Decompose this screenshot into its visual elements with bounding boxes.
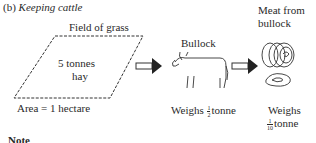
cow-icon — [172, 52, 227, 88]
field-content-line1: 5 tonnes — [58, 57, 95, 69]
meat-title-line2: bullock — [258, 17, 291, 29]
section-heading: (b) Keeping cattle — [3, 1, 82, 13]
field-content-line2: hay — [72, 70, 88, 82]
meat-weight: 110tonne — [266, 117, 298, 131]
field-area: Area = 1 hectare — [17, 102, 90, 114]
meat-weight-prefix: Weighs — [268, 104, 301, 116]
arrow-right-icon — [232, 58, 258, 74]
meat-roll-icon — [262, 43, 294, 67]
fraction-tenth: 110 — [267, 118, 273, 131]
note-label: Note — [8, 134, 30, 143]
bullock-title: Bullock — [181, 37, 216, 49]
meat-steak-icon — [266, 74, 291, 87]
arrow-right-icon — [136, 58, 162, 74]
field-title: Field of grass — [69, 21, 129, 33]
bullock-weight: Weighs 12tonne — [171, 104, 236, 118]
meat-title-line1: Meat from — [258, 4, 305, 16]
